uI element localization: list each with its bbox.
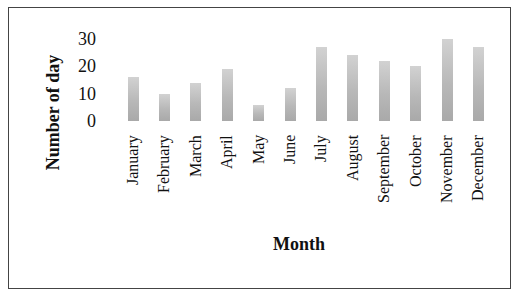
x-tick-label: June: [282, 135, 298, 164]
x-tick-label: March: [188, 135, 204, 177]
bar-september: [379, 61, 390, 121]
x-tick-label: May: [251, 135, 267, 164]
x-tick-label: October: [408, 135, 424, 187]
bar-january: [128, 77, 139, 121]
y-tick-label: 20: [66, 57, 96, 75]
bar-march: [190, 83, 201, 121]
x-tick-label: February: [156, 135, 172, 193]
y-tick-label: 10: [66, 85, 96, 103]
bar-june: [285, 88, 296, 121]
x-tick-label: August: [345, 135, 361, 181]
y-tick-label: 30: [66, 30, 96, 48]
bar-november: [442, 39, 453, 121]
bar-august: [347, 55, 358, 121]
x-tick-label: December: [470, 135, 486, 201]
x-axis-title: Month: [273, 234, 325, 255]
y-tick-label: 0: [66, 112, 96, 130]
x-tick-label: January: [125, 135, 141, 185]
x-tick-label: September: [376, 135, 392, 203]
x-tick-label: July: [313, 135, 329, 162]
bar-december: [473, 47, 484, 121]
x-tick-label: April: [219, 135, 235, 169]
bar-chart: Number of day Month 0102030 JanuaryFebru…: [0, 0, 523, 295]
x-tick-label: November: [439, 135, 455, 203]
bar-may: [253, 105, 264, 121]
bar-july: [316, 47, 327, 121]
y-axis-title: Number of day: [43, 48, 64, 178]
bar-october: [410, 66, 421, 121]
bar-april: [222, 69, 233, 121]
bar-february: [159, 94, 170, 121]
